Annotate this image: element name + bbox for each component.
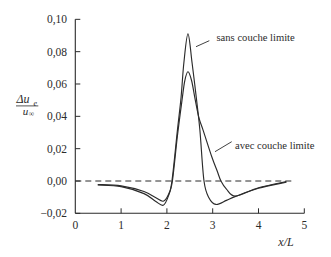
figure: 0,100,080,060,040,020,00−0,02 012345 san…	[0, 0, 331, 257]
series-avec-couche-limite	[98, 72, 286, 202]
y-tick-label: −0,02	[40, 207, 67, 220]
annotation-avec-couche-limite: avec couche limite	[235, 140, 315, 151]
y-tick-label: 0,00	[47, 175, 67, 188]
x-tick-label: 0	[72, 219, 78, 231]
x-tick-label: 5	[301, 219, 307, 231]
y-tick-label: 0,10	[47, 13, 67, 26]
y-tick-label: 0,02	[47, 143, 67, 156]
y-tick-label: 0,06	[47, 78, 67, 91]
y-label-denominator-subscript: ∞	[29, 109, 34, 118]
x-axis-ticks: 012345	[72, 208, 307, 230]
x-tick-label: 3	[210, 219, 216, 231]
y-axis-ticks: 0,100,080,060,040,020,00−0,02	[40, 13, 80, 220]
x-tick-label: 2	[164, 219, 170, 231]
x-tick-label: 4	[256, 219, 262, 231]
y-tick-label: 0,04	[47, 110, 67, 123]
leader-line-avec-couche-limite	[215, 142, 232, 152]
x-axis-label: x/L	[277, 235, 294, 249]
annotation-sans-couche-limite: sans couche limite	[217, 32, 296, 43]
x-tick-label: 1	[118, 219, 124, 231]
y-tick-label: 0,08	[47, 46, 67, 59]
y-axis-label: Δu e u ∞	[16, 92, 39, 118]
series-sans-couche-limite	[98, 34, 286, 206]
chart: 0,100,080,060,040,020,00−0,02 012345 san…	[0, 0, 331, 257]
leader-line-sans-couche-limite	[196, 41, 209, 47]
